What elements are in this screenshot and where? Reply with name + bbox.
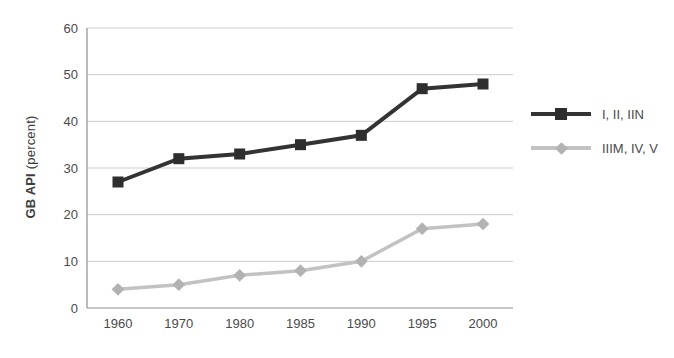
data-point-diamond [294, 264, 307, 277]
data-point-diamond [477, 218, 490, 231]
data-point-diamond [416, 222, 429, 235]
y-tick-label: 0 [71, 301, 78, 316]
legend: I, II, IIN IIIM, IV, V [531, 103, 658, 159]
x-tick-label: 1990 [347, 316, 376, 331]
data-point-diamond [233, 269, 246, 282]
y-tick-label: 20 [64, 207, 78, 222]
legend-diamond-marker-swatch [531, 141, 591, 155]
y-tick-label: 10 [64, 254, 78, 269]
data-point-square [356, 130, 367, 141]
legend-square-marker-swatch [531, 107, 591, 121]
x-tick-label: 2000 [469, 316, 498, 331]
legend-entry-lower-classes: IIIM, IV, V [531, 137, 658, 159]
data-point-square [113, 177, 124, 188]
y-tick-label: 50 [64, 67, 78, 82]
x-tick-label: 1980 [225, 316, 254, 331]
y-tick-label: 40 [64, 114, 78, 129]
data-point-square [417, 83, 428, 94]
line-chart-plot: 0102030405060196019701980198519901995200… [0, 0, 674, 358]
series-line-diamond [118, 224, 483, 289]
square-marker-icon [555, 108, 567, 120]
data-point-diamond [112, 283, 125, 296]
data-point-square [234, 149, 245, 160]
x-tick-label: 1985 [286, 316, 315, 331]
y-tick-label: 60 [64, 21, 78, 36]
data-point-diamond [172, 278, 185, 291]
legend-entry-upper-classes: I, II, IIN [531, 103, 658, 125]
legend-label-series-2: IIIM, IV, V [602, 141, 658, 156]
x-tick-label: 1995 [408, 316, 437, 331]
diamond-marker-icon [555, 142, 568, 155]
x-tick-label: 1960 [104, 316, 133, 331]
legend-label-series-1: I, II, IIN [602, 107, 644, 122]
data-point-square [478, 79, 489, 90]
series-line-square [118, 84, 483, 182]
y-tick-label: 30 [64, 161, 78, 176]
data-point-square [173, 153, 184, 164]
figure: GB API (percent) 01020304050601960197019… [0, 0, 674, 358]
data-point-square [295, 139, 306, 150]
data-point-diamond [355, 255, 368, 268]
x-tick-label: 1970 [164, 316, 193, 331]
